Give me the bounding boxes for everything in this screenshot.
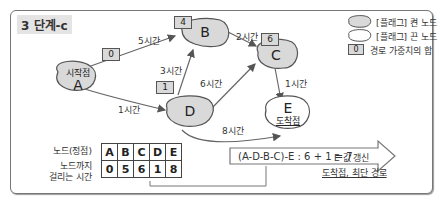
table-header-cell: C <box>134 144 150 161</box>
edge-label-a-d: 1시간 <box>118 103 140 116</box>
legend-unvisited-shape <box>349 30 371 42</box>
table-header-row: A B C D E <box>102 144 182 161</box>
table-value-cell: 8 <box>166 161 182 178</box>
table-header-cell: A <box>102 144 118 161</box>
calc-result-line1: E 값 갱신 <box>334 151 369 164</box>
table-value-cell: 6 <box>134 161 150 178</box>
calc-result-line2: 도착점, 최단 경로 <box>322 166 387 179</box>
table-value-cell: 1 <box>150 161 166 178</box>
edge-label-d-c: 6시간 <box>200 77 222 90</box>
table-value-row: 0 5 6 1 8 <box>102 161 182 178</box>
legend-visited-shape <box>349 16 371 28</box>
legend-weight-label: 경로 가중치의 합 <box>370 44 432 57</box>
edge-label-b-c: 2시간 <box>236 30 258 43</box>
distance-table: A B C D E 0 5 6 1 8 <box>101 143 182 178</box>
node-c-letter: C <box>268 47 284 63</box>
table-row1-label: 노드(정점) <box>36 144 92 157</box>
edge-label-d-e: 8시간 <box>222 124 244 137</box>
weight-box-d: 1 <box>156 81 174 94</box>
edge-c-e <box>275 68 281 100</box>
weight-box-a: 0 <box>102 48 120 61</box>
node-a: 시작점 A <box>60 66 96 93</box>
legend-unvisited-label: [플래그] 끈 노드 <box>376 30 437 43</box>
node-e: E 도착점 <box>268 100 308 127</box>
table-header-cell: D <box>150 144 166 161</box>
edge-label-d-b: 3시간 <box>160 64 182 77</box>
table-header-cell: E <box>166 144 182 161</box>
weight-box-c: 6 <box>261 33 279 46</box>
edge-label-a-b: 5시간 <box>138 34 160 47</box>
node-a-letter: A <box>60 77 96 93</box>
node-b-letter: B <box>197 24 213 40</box>
edge-label-c-e: 1시간 <box>285 77 307 90</box>
node-e-sub: 도착점 <box>268 114 308 127</box>
legend-weight-box: 0 <box>348 44 364 55</box>
node-d-letter: D <box>182 103 198 119</box>
legend-visited-label: [플래그] 켠 노드 <box>376 16 437 29</box>
table-value-cell: 5 <box>118 161 134 178</box>
weight-box-b: 4 <box>174 16 192 29</box>
table-value-cell: 0 <box>102 161 118 178</box>
table-header-cell: B <box>118 144 134 161</box>
table-row2-label-line2: 걸리는 시간 <box>36 170 92 183</box>
